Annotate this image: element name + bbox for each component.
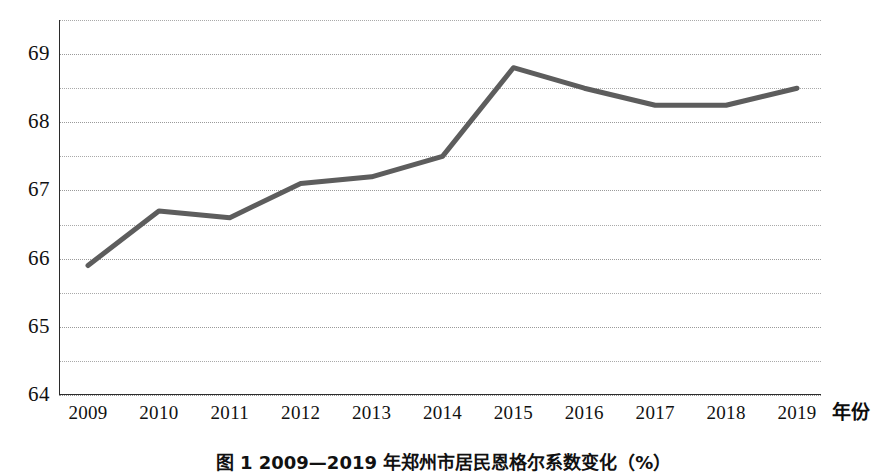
x-axis-tick-label: 2010 [124,402,194,424]
y-axis-tick-label: 65 [6,316,50,337]
y-axis-tick-label: 64 [6,384,50,405]
gridline-minor [59,361,821,362]
y-axis-tick-label: 68 [6,111,50,132]
gridline-major [59,190,821,191]
x-axis-tick-label: 2014 [408,402,478,424]
gridline-major [59,259,821,260]
y-axis-tick-label: 66 [6,248,50,269]
gridline-minor [59,293,821,294]
y-axis-tick-label: 67 [6,179,50,200]
x-axis-title: 年份 [832,400,870,424]
x-axis-line [59,394,821,395]
x-axis-tick-label: 2015 [478,402,548,424]
x-axis-tick-label: 2017 [620,402,690,424]
gridline-minor [59,225,821,226]
y-axis-line [59,20,60,395]
figure-caption: 图 1 2009—2019 年郑州市居民恩格尔系数变化（%） [0,452,887,474]
x-axis-tick-label: 2009 [53,402,123,424]
plot-area [59,20,821,395]
gridline-major [59,54,821,55]
x-axis-tick-label: 2016 [549,402,619,424]
x-axis-tick-label: 2012 [266,402,336,424]
gridline-minor [59,20,821,21]
gridline-major [59,122,821,123]
gridline-minor [59,88,821,89]
x-axis-tick-label: 2019 [762,402,832,424]
gridline-major [59,327,821,328]
x-axis-tick-label: 2018 [691,402,761,424]
x-axis-tick-label: 2011 [195,402,265,424]
x-axis-tick-label: 2013 [337,402,407,424]
y-axis-tick-label: 69 [6,43,50,64]
gridline-major [59,395,821,396]
gridline-minor [59,156,821,157]
